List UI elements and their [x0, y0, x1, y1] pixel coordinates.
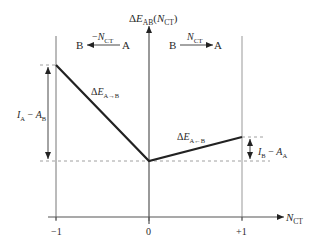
- energy-diagram: ΔEAB(NCT) NCT −1 0 +1 B A −NCT B A NCT Δ…: [0, 0, 312, 248]
- right-transfer-from: B: [169, 39, 176, 51]
- x-tick-label-zero: 0: [146, 226, 151, 237]
- left-transfer-to: B: [76, 39, 83, 51]
- left-transfer-from: A: [122, 39, 130, 51]
- x-tick-label-plus-one: +1: [236, 226, 247, 237]
- right-transfer-label: NCT: [186, 31, 203, 45]
- y-axis-label: ΔEAB(NCT): [129, 12, 178, 27]
- left-branch-label: ΔEA→B: [91, 86, 120, 99]
- right-gap-label: IB − AA: [257, 146, 287, 159]
- right-branch-label: ΔEA←B: [177, 131, 206, 144]
- left-gap-label: IA − AB: [16, 109, 47, 122]
- left-transfer-label: −NCT: [92, 31, 114, 45]
- x-tick-label-minus-one: −1: [51, 226, 62, 237]
- x-axis-label: NCT: [285, 211, 303, 226]
- right-transfer-to: A: [214, 39, 222, 51]
